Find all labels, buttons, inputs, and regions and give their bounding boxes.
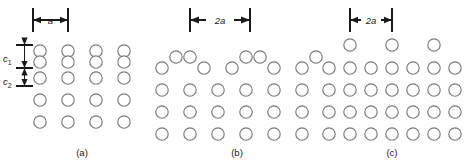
atom-circle: [428, 84, 440, 96]
atom-circle: [240, 106, 252, 118]
arrow-head-left: [190, 17, 199, 24]
atom-circle: [240, 84, 252, 96]
dimension-label-c: 2a: [365, 15, 377, 26]
atom-circle: [386, 39, 398, 51]
atom-circle: [268, 106, 280, 118]
spacing-label-c1-sub: 1: [8, 59, 12, 66]
atom-circle: [386, 84, 398, 96]
atom-circle: [118, 56, 130, 68]
atom-circle: [156, 106, 168, 118]
atom-circle: [34, 94, 46, 106]
atom-circle: [212, 128, 224, 140]
atom-circle: [62, 72, 74, 84]
atom-group-c: [323, 39, 461, 140]
atom-circle: [449, 128, 461, 140]
atom-circle: [296, 128, 308, 140]
atom-circle: [296, 62, 308, 74]
arrow-head-c2-top: [21, 61, 27, 68]
atom-circle: [62, 56, 74, 68]
atom-circle: [365, 106, 377, 118]
atom-circle: [90, 116, 102, 128]
atom-circle: [62, 94, 74, 106]
arrow-head-left: [350, 17, 358, 24]
caption-b: (b): [231, 147, 243, 158]
atom-circle: [428, 128, 440, 140]
atom-group-a: [34, 45, 130, 128]
arrow-head-c1-top: [21, 38, 27, 46]
atom-circle: [323, 84, 335, 96]
atom-circle: [365, 62, 377, 74]
atom-circle: [90, 94, 102, 106]
atom-circle: [407, 84, 419, 96]
atom-circle: [198, 62, 210, 74]
figure-root: a c1 c2 (a): [0, 0, 470, 165]
dimension-marker-a: a: [33, 8, 68, 32]
atom-circle: [240, 128, 252, 140]
atom-circle: [365, 128, 377, 140]
atom-circle: [254, 51, 266, 63]
atom-circle: [323, 128, 335, 140]
atom-circle: [184, 84, 196, 96]
atom-circle: [323, 62, 335, 74]
atom-circle: [170, 51, 182, 63]
atom-group-b: [156, 51, 322, 140]
caption-a: (a): [76, 147, 88, 158]
atom-circle: [90, 56, 102, 68]
atom-circle: [344, 106, 356, 118]
atom-circle: [34, 56, 46, 68]
arrow-head-right: [60, 17, 68, 24]
atom-circle: [344, 84, 356, 96]
atom-circle: [323, 106, 335, 118]
atom-circle: [428, 39, 440, 51]
arrow-head-left: [33, 17, 41, 24]
atom-circle: [344, 39, 356, 51]
atom-circle: [310, 51, 322, 63]
panel-b: 2a (b): [156, 8, 322, 158]
spacing-markers: c1 c2: [3, 38, 33, 89]
spacing-label-c2-sub: 2: [8, 82, 12, 89]
atom-circle: [296, 84, 308, 96]
arrow-head-c2-bottom: [21, 79, 27, 86]
atom-circle: [240, 51, 252, 63]
atom-circle: [212, 106, 224, 118]
atom-circle: [365, 84, 377, 96]
atom-circle: [118, 72, 130, 84]
atom-circle: [386, 62, 398, 74]
dimension-marker-c: 2a: [350, 8, 392, 32]
atom-circle: [386, 106, 398, 118]
atom-circle: [156, 62, 168, 74]
atom-circle: [449, 106, 461, 118]
atom-circle: [344, 128, 356, 140]
spacing-label-c2: c2: [3, 76, 12, 89]
atom-circle: [90, 72, 102, 84]
atom-circle: [296, 106, 308, 118]
panel-a: a c1 c2 (a): [3, 8, 130, 158]
atom-circle: [156, 84, 168, 96]
atom-circle: [407, 62, 419, 74]
atom-circle: [428, 62, 440, 74]
atom-circle: [34, 116, 46, 128]
arrow-head-right: [384, 17, 392, 24]
atom-circle: [344, 62, 356, 74]
caption-c: (c): [386, 147, 397, 158]
atom-circle: [407, 106, 419, 118]
arrow-head-right: [241, 17, 250, 24]
atom-circle: [34, 72, 46, 84]
atom-circle: [449, 62, 461, 74]
panel-c: 2a (c): [323, 8, 461, 158]
spacing-label-c1: c1: [3, 53, 12, 66]
atom-circle: [184, 51, 196, 63]
atom-circle: [428, 106, 440, 118]
atom-circle: [449, 84, 461, 96]
atom-circle: [386, 128, 398, 140]
atom-circle: [268, 62, 280, 74]
atom-circle: [118, 94, 130, 106]
dimension-label-b: 2a: [214, 15, 226, 26]
dimension-marker-b: 2a: [190, 8, 250, 32]
atom-circle: [268, 128, 280, 140]
atom-circle: [184, 106, 196, 118]
atom-circle: [156, 128, 168, 140]
atom-circle: [226, 62, 238, 74]
atom-circle: [184, 128, 196, 140]
figure-canvas: a c1 c2 (a): [0, 0, 470, 165]
